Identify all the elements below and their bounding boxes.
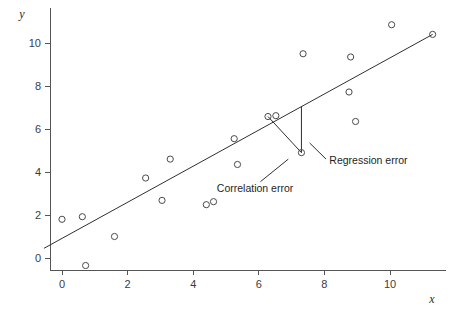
- regression-error-label: Regression error: [329, 154, 408, 166]
- data-point-marker: [159, 197, 165, 203]
- x-tick-label: 4: [190, 278, 196, 290]
- y-tick-label: 4: [35, 166, 41, 178]
- x-tick-label: 10: [384, 278, 396, 290]
- data-point-marker: [83, 262, 89, 268]
- scatter-plot-figure: 02468100246810 Correlation errorRegressi…: [0, 0, 454, 318]
- data-point-marker: [389, 22, 395, 28]
- y-tick-label: 10: [29, 37, 41, 49]
- data-point-marker: [234, 161, 240, 167]
- data-point-marker: [167, 156, 173, 162]
- y-axis-title: y: [18, 7, 25, 21]
- x-tick-label: 8: [321, 278, 327, 290]
- data-point-marker: [79, 214, 85, 220]
- data-point-marker: [111, 233, 117, 239]
- data-point-marker: [346, 89, 352, 95]
- x-tick-label: 6: [256, 278, 262, 290]
- regression-fit-line: [44, 34, 433, 248]
- data-point-marker: [210, 199, 216, 205]
- annotation-leader-lines: [260, 143, 326, 182]
- data-point-marker: [59, 216, 65, 222]
- annotation-labels: Correlation errorRegression error: [217, 154, 408, 194]
- x-tick-label: 0: [59, 278, 65, 290]
- data-point-marker: [231, 136, 237, 142]
- data-point-marker: [203, 202, 209, 208]
- data-points: [59, 22, 436, 269]
- correlation-error-leader-line: [260, 159, 288, 182]
- axes: [50, 8, 446, 270]
- data-point-marker: [300, 51, 306, 57]
- correlation-error-segment: [268, 117, 301, 153]
- x-axis-title: x: [428, 292, 435, 306]
- regression-line: [44, 34, 433, 248]
- data-point-marker: [273, 113, 279, 119]
- data-point-marker: [143, 175, 149, 181]
- x-tick-label: 2: [125, 278, 131, 290]
- regression-error-leader-line: [310, 143, 326, 159]
- data-point-marker: [352, 118, 358, 124]
- data-point-marker: [348, 54, 354, 60]
- correlation-error-label: Correlation error: [217, 182, 294, 194]
- y-tick-label: 6: [35, 123, 41, 135]
- error-segments: [268, 106, 301, 152]
- y-tick-label: 8: [35, 80, 41, 92]
- y-tick-label: 0: [35, 252, 41, 264]
- plot-canvas: 02468100246810 Correlation errorRegressi…: [0, 0, 454, 318]
- y-tick-label: 2: [35, 209, 41, 221]
